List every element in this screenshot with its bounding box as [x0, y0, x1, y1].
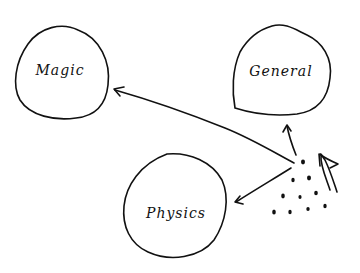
diagram-drawing — [0, 0, 360, 273]
general-label: General — [249, 63, 312, 79]
magic-label: Magic — [36, 62, 85, 78]
particle-cluster — [272, 160, 326, 215]
diagram-canvas: Magic General Physics — [0, 0, 360, 273]
arrow-to-magic — [115, 90, 294, 163]
physics-label: Physics — [146, 205, 206, 221]
